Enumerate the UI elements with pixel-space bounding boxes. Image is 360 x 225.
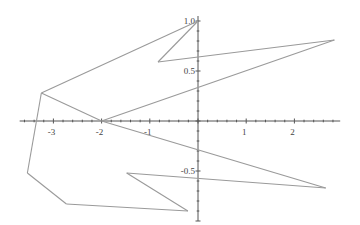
path-segment (127, 173, 326, 188)
tick-labels: -3-2-1121.00.5-0.5 (48, 16, 295, 176)
x-tick-label: 2 (290, 127, 295, 137)
path-segment (41, 93, 101, 121)
x-tick-label: 1 (242, 127, 247, 137)
path-segment (158, 40, 334, 62)
y-tick-label: 0.5 (184, 66, 196, 76)
path-segment (66, 204, 187, 211)
x-tick-label: -3 (48, 127, 56, 137)
series (27, 21, 334, 211)
path-segment (102, 40, 335, 121)
path-segment (41, 21, 198, 93)
axes (20, 16, 341, 221)
path-segment (158, 21, 198, 62)
path-segment (27, 173, 66, 204)
y-tick-label: -0.5 (181, 166, 196, 176)
x-tick-label: -2 (96, 127, 104, 137)
plot-area: -3-2-1121.00.5-0.5 (0, 0, 360, 225)
path-segment (27, 93, 41, 173)
path-segment (127, 173, 188, 211)
